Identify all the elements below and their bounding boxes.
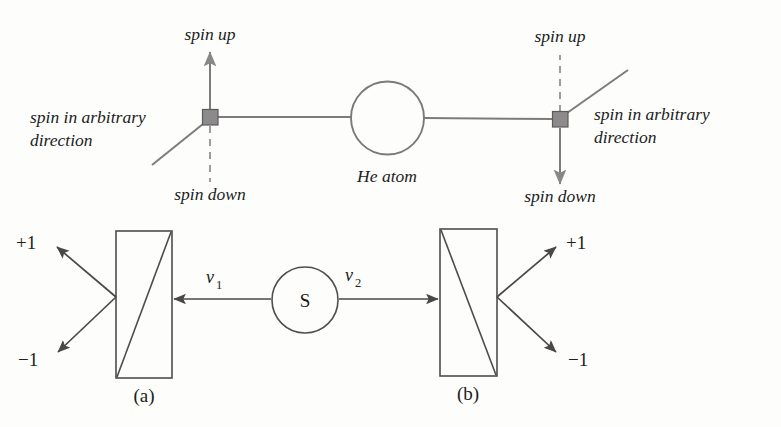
analyzer-a-output-minus-label: −1 [18, 349, 38, 370]
analyzer-a-caption: (a) [133, 385, 154, 407]
left-spin-up-label: spin up [184, 24, 235, 44]
link-atom-to-right [424, 118, 553, 119]
analyzer-b-diagonal [441, 230, 496, 375]
right-arbitrary-label-line2: direction [594, 127, 657, 147]
left-spin-down-label: spin down [174, 184, 246, 204]
velocity-right-subscript: 2 [355, 276, 361, 290]
analyzer-a-output-plus-label: +1 [16, 232, 36, 253]
velocity-left-subscript: 1 [216, 278, 222, 292]
figure-canvas: spin up spin down spin in arbitrary dire… [0, 0, 781, 427]
he-atom-circle [351, 82, 424, 155]
bottom-diagram-group: S v 1 v 2 +1 −1 (a) [16, 229, 588, 407]
analyzer-a-diagonal [117, 232, 171, 377]
left-arbitrary-label-line2: direction [30, 130, 93, 150]
analyzer-b-output-minus-arrow [497, 297, 556, 352]
analyzer-b-caption: (b) [457, 383, 479, 405]
he-atom-label: He atom [356, 166, 417, 186]
analyzer-b-output-plus-label: +1 [566, 232, 586, 253]
velocity-right-symbol: v [345, 265, 353, 285]
analyzer-b-output-plus-arrow [497, 247, 556, 297]
top-diagram-group: spin up spin down spin in arbitrary dire… [30, 24, 710, 206]
right-spin-up-label: spin up [534, 26, 585, 46]
right-spin-down-label: spin down [524, 186, 596, 206]
physics-figure: spin up spin down spin in arbitrary dire… [0, 0, 781, 427]
left-detector-node[interactable] [203, 110, 219, 126]
analyzer-a-output-minus-arrow [58, 297, 116, 352]
analyzer-a-output-plus-arrow [57, 247, 116, 297]
right-arbitrary-label-line1: spin in arbitrary [594, 104, 710, 124]
right-detector-node[interactable] [553, 112, 569, 128]
velocity-left-symbol: v [206, 267, 214, 287]
source-label: S [300, 290, 311, 311]
left-arbitrary-label-line1: spin in arbitrary [30, 107, 146, 127]
left-arbitrary-direction-line [152, 124, 203, 165]
analyzer-b-output-minus-label: −1 [568, 349, 588, 370]
